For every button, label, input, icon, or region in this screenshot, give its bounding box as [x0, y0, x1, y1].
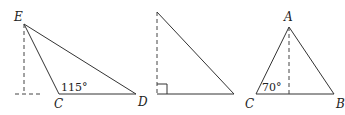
figure-2-right-triangle [157, 12, 234, 94]
angle-label-115: 115° [61, 81, 88, 94]
right-angle-marker [157, 84, 167, 94]
label-c: C [245, 97, 254, 111]
figure-3-triangle-acb: A C B 70° [245, 10, 345, 111]
edge-ab [289, 27, 334, 94]
figure-1-triangle-ecd: E C D 115° [13, 10, 148, 111]
label-e: E [13, 10, 23, 24]
label-a: A [283, 10, 293, 24]
angle-label-70: 70° [262, 81, 282, 94]
hypotenuse [157, 12, 234, 94]
label-b: B [335, 97, 345, 111]
label-c: C [54, 97, 63, 111]
label-d: D [137, 95, 148, 109]
geometry-diagram: E C D 115° A C B 70° [0, 0, 345, 115]
